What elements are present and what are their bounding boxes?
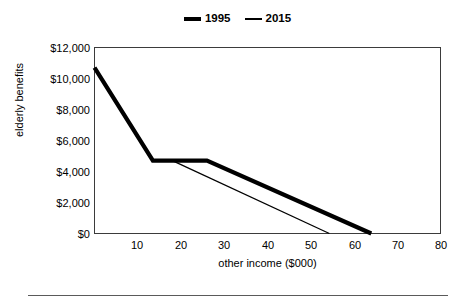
chart-figure: 1995 2015 elderly benefits $12,000 $10,0… (0, 0, 475, 305)
series-line-2015 (172, 161, 329, 234)
plot-frame-border (95, 48, 441, 234)
x-axis-title: other income ($000) (94, 256, 441, 270)
series-line-1995 (95, 68, 372, 234)
page-divider-rule (28, 295, 448, 296)
